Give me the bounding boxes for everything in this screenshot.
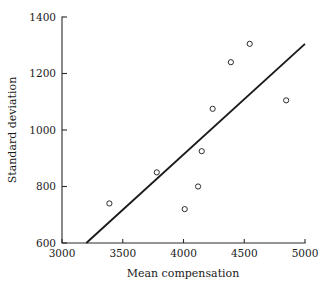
data-point-0	[107, 201, 112, 206]
x-axis-title: Mean compensation	[127, 267, 240, 280]
y-tick-label-1400: 1400	[29, 11, 56, 23]
x-tick-label-3500: 3500	[109, 247, 136, 259]
x-tick-label-4000: 4000	[170, 247, 197, 259]
data-point-4	[199, 149, 204, 154]
data-point-1	[154, 170, 159, 175]
regression-line	[86, 44, 305, 243]
y-tick-label-600: 600	[36, 237, 56, 249]
y-tick-label-800: 800	[36, 180, 56, 192]
y-tick-label-1000: 1000	[29, 124, 56, 136]
axes	[62, 17, 305, 243]
tick-marks	[62, 17, 305, 243]
data-point-6	[228, 60, 233, 65]
data-point-3	[195, 184, 200, 189]
y-tick-label-1200: 1200	[29, 67, 56, 79]
x-tick-label-3000: 3000	[49, 247, 76, 259]
axis-spines	[62, 17, 305, 243]
x-tick-label-4500: 4500	[231, 247, 258, 259]
y-axis-title: Standard deviation	[6, 77, 19, 183]
data-points	[107, 41, 289, 211]
plot-canvas: 30003500400045005000 600800100012001400 …	[0, 0, 329, 292]
y-axis-tick-labels: 600800100012001400	[29, 11, 56, 249]
regression-line-path	[86, 44, 305, 243]
data-point-5	[210, 106, 215, 111]
scatter-plot-figure: 30003500400045005000 600800100012001400 …	[0, 0, 329, 292]
data-point-7	[247, 41, 252, 46]
data-point-2	[182, 207, 187, 212]
x-axis-tick-labels: 30003500400045005000	[49, 247, 319, 259]
x-tick-label-5000: 5000	[292, 247, 319, 259]
data-point-8	[284, 98, 289, 103]
